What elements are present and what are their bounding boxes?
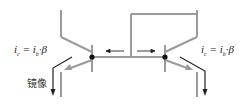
right-collector-current-arrow [180, 57, 205, 92]
right-emitter-arrow-icon [185, 64, 193, 70]
left-transistor [61, 10, 92, 97]
formula-eq: = [20, 43, 33, 55]
formula-beta: ·β [226, 43, 234, 55]
right-transistor [165, 10, 197, 97]
left-formula: ic = ib·β [14, 43, 47, 57]
right-down-arrow-icon [203, 89, 208, 96]
formula-beta: ·β [39, 43, 47, 55]
right-base-node [162, 54, 167, 59]
mirror-label: 镜像 [27, 75, 47, 90]
left-emitter-arrow-icon [64, 64, 72, 70]
formula-eq: = [207, 43, 220, 55]
left-down-arrow-icon [51, 89, 56, 96]
left-collector-current-arrow [53, 57, 72, 92]
right-formula: ic = ib·β [201, 43, 234, 57]
left-base-node [89, 54, 94, 59]
